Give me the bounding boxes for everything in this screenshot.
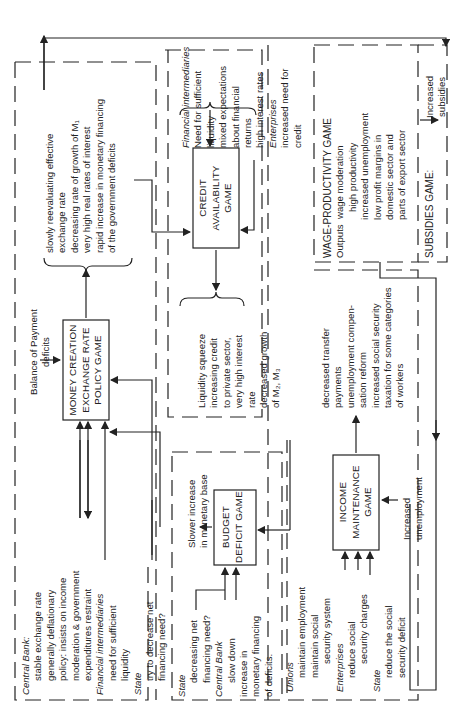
input-line: financing need? <box>156 571 168 695</box>
output-line: increasing credit <box>208 332 220 408</box>
actor-label: Enterprises <box>267 47 279 148</box>
budget-deficit-inputs: State decreasing net financing need? Cen… <box>176 615 275 697</box>
output-line: Slower increase <box>186 474 198 548</box>
wage-productivity-title: WAGE-PRODUCTIVITY GAME <box>322 113 334 258</box>
output-line: increased unemployment <box>359 113 371 258</box>
credit-availability-game-title: CREDIT AVAILABILITY GAME <box>197 150 235 246</box>
budget-deficit-game-title: BUDGET DEFICIT GAME <box>220 491 245 563</box>
input-line: stable exchange rate <box>32 571 44 695</box>
actor-label: Unions <box>284 587 296 692</box>
output-line: parts of export sector <box>396 113 408 258</box>
output-line: of the government deficits <box>106 99 118 253</box>
output-line: high productivity <box>347 113 359 258</box>
title-line: GAME <box>222 150 235 246</box>
input-line: need for sufficient <box>107 571 119 695</box>
output-line: rate <box>246 332 258 408</box>
output-line: decreased growth <box>258 332 270 408</box>
input-line: increased need for <box>279 47 291 148</box>
actor-label: State <box>176 615 188 697</box>
money-creation-inputs: Central Bank: stable exchange rate gener… <box>20 571 169 695</box>
money-creation-outputs: slowly reevaluating effective exchange r… <box>44 99 118 253</box>
input-line: decreasing net <box>188 615 200 697</box>
income-maintenance-outputs: decreased transfer payments unemployment… <box>320 287 407 408</box>
output-line: domestic sector and <box>384 113 396 258</box>
actor-label: State <box>371 587 383 692</box>
policy-games-diagram: MONEY CREATION EXCHANGE RATE POLICY GAME… <box>0 0 475 715</box>
input-line: deficits <box>40 309 52 395</box>
input-line: mixed expectations <box>217 47 229 148</box>
input-line: slow down <box>226 615 238 697</box>
input-line: security deficit <box>396 587 408 692</box>
actor-label: State <box>132 571 144 695</box>
input-line: security system <box>321 587 333 692</box>
output-line: decreased transfer <box>320 287 332 408</box>
output-line: payments <box>332 287 344 408</box>
credit-outputs: Liquidity squeeze increasing credit to p… <box>196 332 283 408</box>
output-line: unemployment compen- <box>345 287 357 408</box>
actor-label: Financial intermediaries <box>180 47 192 148</box>
input-line: financing need? <box>201 615 213 697</box>
output-line: wage moderation <box>334 145 345 219</box>
credit-inputs: Financial intermediaries Need for suffic… <box>180 47 304 148</box>
income-maintenance-game-title: INCOME MAINTENANCE GAME <box>337 456 375 548</box>
income-maintenance-inputs: Unions maintain employment maintain soci… <box>284 587 408 692</box>
input-line: reduce social <box>346 587 358 692</box>
input-line: Increased <box>401 477 413 540</box>
output-line: increased social security <box>370 287 382 408</box>
input-line: generally deflationary <box>45 571 57 695</box>
title-line: MONEY CREATION <box>67 322 80 418</box>
budget-deficit-outputs: Slower increase in monetary base <box>186 474 211 548</box>
output-line: of workers <box>394 287 406 408</box>
output-line: slowly reevaluating effective <box>44 99 56 253</box>
output-line: in monetary base <box>198 474 210 548</box>
wage-productivity-game: WAGE-PRODUCTIVITY GAME Outputs wage mode… <box>322 113 409 258</box>
input-line: security charges <box>358 587 370 692</box>
output-line: of M₂, M₃ <box>270 332 282 408</box>
subsidies-game: SUBSIDIES GAME: <box>424 170 436 258</box>
actor-label: Financial intermediaries <box>94 571 106 695</box>
input-line: unemployment <box>413 477 425 540</box>
title-line: DEFICIT GAME <box>233 491 246 563</box>
output-line: low profit margins in <box>372 113 384 258</box>
input-line: try to decrease net <box>144 571 156 695</box>
outputs-label: Outputs <box>334 224 345 258</box>
output-line: taxation for some categories <box>382 287 394 408</box>
input-line: about financial <box>230 47 242 148</box>
title-line: AVAILABILITY <box>210 150 223 246</box>
money-creation-game-title: MONEY CREATION EXCHANGE RATE POLICY GAME <box>67 322 105 418</box>
title-line: CREDIT <box>197 150 210 246</box>
input-line: liquidity <box>119 571 131 695</box>
actor-label: Central Bank <box>213 615 225 697</box>
output-line: sation reform <box>357 287 369 408</box>
increased-unemployment-input: Increased unemployment <box>401 477 426 540</box>
title-line: MAINTENANCE <box>350 456 363 548</box>
output-line: decreasing rate of growth of M₁ <box>69 99 81 253</box>
input-line: liquidity <box>205 47 217 148</box>
title-line: EXCHANGE RATE <box>80 322 93 418</box>
actor-label: Enterprises <box>334 587 346 692</box>
subsidies-outputs: Increased subsidies <box>424 76 449 118</box>
output-line: Increased <box>424 76 436 118</box>
input-line: Need for sufficient <box>192 47 204 148</box>
input-line: moderation & government <box>70 571 82 695</box>
input-line: monetary financing <box>250 615 262 697</box>
output-line: Liquidity squeeze <box>196 332 208 408</box>
input-line: reduce the social <box>383 587 395 692</box>
input-line: high interest rates <box>254 47 266 148</box>
output-line: very high interest <box>233 332 245 408</box>
output-line: to private sector, <box>221 332 233 408</box>
title-line: GAME <box>362 456 375 548</box>
input-line: maintain employment <box>296 587 308 692</box>
input-line: Balance of Payment <box>28 309 40 395</box>
input-line: increase in <box>238 615 250 697</box>
subsidies-title: SUBSIDIES GAME: <box>424 170 436 258</box>
input-line: maintain social <box>309 587 321 692</box>
input-line: of deficits. <box>263 615 275 697</box>
output-line: very high real rates of interest <box>81 99 93 253</box>
title-line: INCOME <box>337 456 350 548</box>
input-line: returns <box>242 47 254 148</box>
title-line: POLICY GAME <box>92 322 105 418</box>
balance-of-payment-input: Balance of Payment deficits <box>28 309 53 395</box>
input-line: credit <box>292 47 304 148</box>
output-line: exchange rate <box>56 99 68 253</box>
